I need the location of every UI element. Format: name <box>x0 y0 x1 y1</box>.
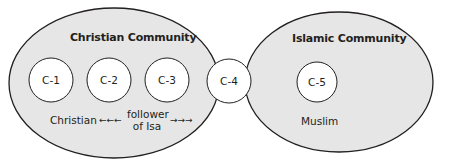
follower-line1: follower <box>127 108 167 120</box>
christian-label: Christian <box>50 114 97 126</box>
c4-label: C-4 <box>220 75 238 87</box>
c3-label: C-3 <box>158 74 176 86</box>
follower-of-isa-label: follower of Isa <box>127 108 167 132</box>
muslim-label: Muslim <box>301 115 338 127</box>
islamic-community-title: Islamic Community <box>292 32 406 45</box>
left-arrows-icon: ←←← <box>99 115 122 125</box>
c2-label: C-2 <box>100 74 118 86</box>
c5-label: C-5 <box>308 76 326 88</box>
c1-label: C-1 <box>42 74 60 86</box>
christian-community-title: Christian Community <box>70 31 196 44</box>
right-arrows-icon: →→→ <box>170 115 193 125</box>
follower-line2: of Isa <box>127 120 167 132</box>
